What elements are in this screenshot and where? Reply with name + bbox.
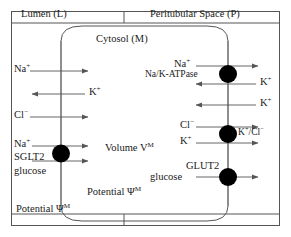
label-baso-k-in-leak: K+: [260, 98, 272, 109]
label-cell-volume-text: Volume V: [105, 142, 148, 153]
ion-charge: −: [190, 118, 194, 126]
ion-text: K: [260, 76, 268, 87]
ion-text: Cl: [180, 119, 190, 130]
label-cell-volume: Volume VM: [105, 143, 154, 154]
ion-charge: +: [186, 57, 190, 65]
ion-charge: +: [26, 62, 30, 70]
label-lumen-potential-superscript: M: [64, 202, 70, 210]
label-baso-k-in-atpase: K+: [260, 77, 272, 88]
ion-text: Na: [14, 138, 26, 149]
label-lumen: Lumen (L): [21, 9, 67, 20]
transporter-sglt2-node: [52, 145, 70, 163]
transporter-k-cl-node: [219, 125, 237, 143]
label-transporter-k-cl: K+/Cl−: [238, 128, 264, 138]
label-cytosol: Cytosol (M): [96, 34, 148, 45]
ion-text: K: [260, 97, 268, 108]
label-lumen-potential-symbol: Ψ: [56, 203, 64, 214]
ion-charge: +: [268, 75, 272, 83]
label-lumen-potential: Potential ΨM: [16, 204, 70, 215]
label-baso-cl-out: Cl−: [180, 120, 194, 131]
ion-charge: −: [24, 108, 28, 116]
ion-charge: +: [188, 134, 192, 142]
label-baso-na-out: Na+: [174, 59, 190, 70]
figure-canvas: Lumen (L) Peritubular Space (P) Cytosol …: [0, 0, 291, 237]
label-transporter-glut2: GLUT2: [186, 161, 219, 172]
cl-text: Cl: [251, 127, 260, 137]
label-baso-glucose: glucose: [150, 172, 182, 183]
label-peritubular-space: Peritubular Space (P): [150, 9, 240, 20]
ion-charge: +: [26, 137, 30, 145]
label-cell-potential-text: Potential: [87, 186, 127, 197]
label-apical-glucose: glucose: [14, 166, 46, 177]
k-text: K: [238, 127, 245, 137]
ion-text: K: [89, 86, 97, 97]
label-cell-volume-superscript: M: [148, 141, 154, 149]
label-apical-k-out: K+: [89, 87, 101, 98]
ion-text: K: [180, 135, 188, 146]
ion-text: Na: [14, 63, 26, 74]
label-apical-cl-in: Cl−: [14, 110, 28, 121]
transporter-glut2-node: [219, 168, 237, 186]
label-cell-potential-superscript: M: [135, 185, 141, 193]
label-apical-na-in: Na+: [14, 64, 30, 75]
ion-text: Cl: [14, 109, 24, 120]
ion-text: Na: [174, 58, 186, 69]
label-baso-k-out-cotrans: K+: [180, 136, 192, 147]
label-cell-potential: Potential ΨM: [87, 187, 141, 198]
cl-charge: −: [260, 125, 264, 132]
label-transporter-na-k-atpase: Na/K-ATPase: [145, 70, 198, 80]
label-cell-potential-symbol: Ψ: [127, 186, 135, 197]
transporter-na-k-atpase-node: [219, 65, 237, 83]
label-lumen-potential-text: Potential: [16, 203, 56, 214]
ion-charge: +: [97, 85, 101, 93]
label-transporter-sglt2: SGLT2: [14, 152, 45, 163]
label-apical-sglt2-na: Na+: [14, 139, 30, 150]
ion-charge: +: [268, 96, 272, 104]
